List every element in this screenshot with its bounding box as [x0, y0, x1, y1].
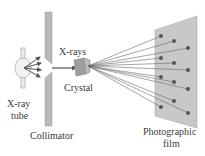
xray-diffraction-diagram: X-ray tube Collimator X-rays Crystal Pho… [0, 0, 205, 156]
crystal [74, 58, 90, 76]
label-crystal: Crystal [64, 82, 93, 93]
label-xrays: X-rays [59, 46, 86, 57]
label-xray-tube-1: X-ray [7, 98, 30, 109]
label-film-1: Photographic [143, 126, 197, 137]
label-collimator: Collimator [30, 130, 74, 141]
xray-tube [15, 48, 41, 88]
label-film-2: film [163, 138, 180, 149]
label-xray-tube-2: tube [11, 110, 29, 121]
photographic-film [155, 16, 197, 128]
collimator [45, 12, 52, 126]
